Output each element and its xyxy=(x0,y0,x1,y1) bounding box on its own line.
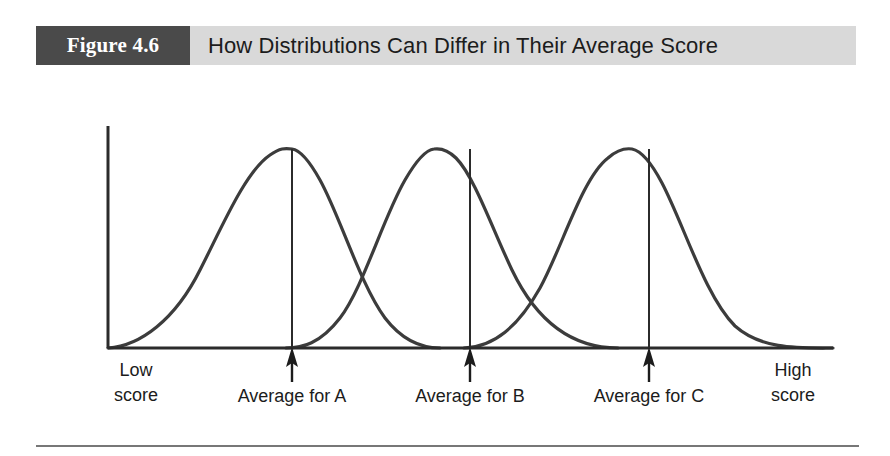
curve-distribution-a xyxy=(108,149,440,348)
curve-distribution-b xyxy=(286,149,618,348)
arrow-average-b xyxy=(464,347,476,382)
x-axis-label-average-b: Average for B xyxy=(390,384,550,409)
x-axis-label-average-a: Average for A xyxy=(212,384,372,409)
plot-area: Frequency Low score Average for A Averag… xyxy=(0,0,890,456)
figure-container: Figure 4.6 How Distributions Can Differ … xyxy=(0,0,890,456)
arrow-average-c xyxy=(643,347,655,382)
x-axis-label-high-score: High score xyxy=(733,358,853,408)
figure-bottom-rule xyxy=(36,445,859,447)
x-axis-label-low-score: Low score xyxy=(76,358,196,408)
arrow-average-a xyxy=(286,347,298,382)
x-axis-label-average-c: Average for C xyxy=(569,384,729,409)
